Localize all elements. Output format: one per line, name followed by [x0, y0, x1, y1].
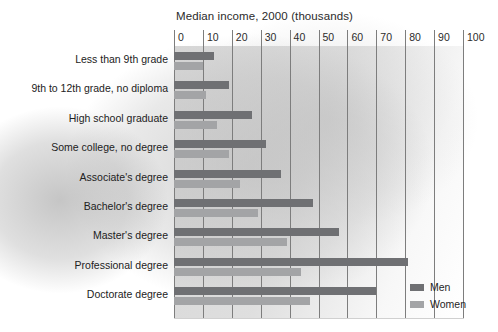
- x-tick-50: 50: [323, 31, 335, 43]
- y-category-row: High school graduate: [0, 112, 170, 124]
- bar-women: [174, 238, 287, 246]
- y-category-label: Associate's degree: [0, 171, 168, 183]
- bar-men: [174, 258, 408, 266]
- y-category-label: Doctorate degree: [0, 288, 168, 300]
- bar-men: [174, 81, 229, 89]
- bar-men: [174, 111, 252, 119]
- legend-item-men: Men: [410, 281, 466, 293]
- y-category-label: High school graduate: [0, 112, 168, 124]
- y-category-label: Some college, no degree: [0, 141, 168, 153]
- y-category-row: Some college, no degree: [0, 141, 170, 153]
- x-tick-70: 70: [380, 31, 392, 43]
- chart-figure: Median income, 2000 (thousands) 01020304…: [0, 0, 498, 332]
- x-tick-0: 0: [178, 31, 184, 43]
- y-category-row: Less than 9th grade: [0, 53, 170, 65]
- y-category-row: Doctorate degree: [0, 288, 170, 300]
- y-category-row: 9th to 12th grade, no diploma: [0, 82, 170, 94]
- bar-men: [174, 170, 281, 178]
- bar-men: [174, 140, 266, 148]
- gridline-90: [434, 30, 435, 318]
- bar-men: [174, 228, 339, 236]
- bar-men: [174, 287, 376, 295]
- bar-men: [174, 52, 214, 60]
- y-category-label: Professional degree: [0, 259, 168, 271]
- gridline-100: [463, 30, 464, 318]
- x-axis-line: [174, 318, 464, 319]
- bar-women: [174, 209, 258, 217]
- y-category-row: Professional degree: [0, 259, 170, 271]
- chart-legend: Men Women: [410, 281, 466, 315]
- bar-women: [174, 150, 229, 158]
- y-category-label: Bachelor's degree: [0, 200, 168, 212]
- bar-women: [174, 91, 206, 99]
- x-tick-40: 40: [294, 31, 306, 43]
- legend-swatch-men-icon: [410, 284, 424, 291]
- legend-label-men: Men: [430, 281, 450, 293]
- y-category-label: Less than 9th grade: [0, 53, 168, 65]
- legend-swatch-women-icon: [410, 301, 424, 308]
- x-tick-100: 100: [467, 31, 485, 43]
- bar-women: [174, 121, 217, 129]
- gridline-80: [405, 30, 406, 318]
- gridline-60: [347, 30, 348, 318]
- bar-women: [174, 180, 240, 188]
- x-tick-20: 20: [236, 31, 248, 43]
- x-tick-60: 60: [351, 31, 363, 43]
- bar-men: [174, 199, 313, 207]
- x-tick-10: 10: [207, 31, 219, 43]
- legend-label-women: Women: [430, 298, 466, 310]
- y-category-label: 9th to 12th grade, no diploma: [0, 82, 168, 94]
- bar-women: [174, 268, 301, 276]
- x-tick-80: 80: [409, 31, 421, 43]
- bar-women: [174, 297, 310, 305]
- y-category-label: Master's degree: [0, 229, 168, 241]
- x-tick-90: 90: [438, 31, 450, 43]
- y-category-row: Associate's degree: [0, 171, 170, 183]
- chart-title: Median income, 2000 (thousands): [176, 10, 353, 22]
- legend-item-women: Women: [410, 298, 466, 310]
- gridline-50: [319, 30, 320, 318]
- bar-women: [174, 62, 203, 70]
- y-category-row: Master's degree: [0, 229, 170, 241]
- gridline-70: [376, 30, 377, 318]
- y-category-row: Bachelor's degree: [0, 200, 170, 212]
- x-tick-30: 30: [265, 31, 277, 43]
